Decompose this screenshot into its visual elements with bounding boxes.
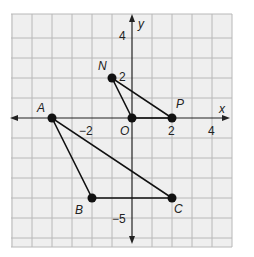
coordinate-plane: y x 4 2 −5 −2 2 4 O N P A B C xyxy=(0,0,254,257)
label-a: A xyxy=(36,101,45,115)
y-tick-2: 2 xyxy=(119,70,126,84)
x-tick-4: 4 xyxy=(208,124,215,138)
y-tick-neg5: −5 xyxy=(112,212,126,226)
x-tick-neg2: −2 xyxy=(79,124,93,138)
point-n xyxy=(108,74,117,83)
point-o xyxy=(128,114,137,123)
label-c: C xyxy=(174,202,183,216)
label-p: P xyxy=(176,97,184,111)
point-b xyxy=(88,194,97,203)
label-n: N xyxy=(98,59,107,73)
y-axis-label: y xyxy=(137,17,145,31)
x-axis-label: x xyxy=(218,102,226,116)
point-a xyxy=(48,114,57,123)
origin-label: O xyxy=(120,124,129,138)
label-b: B xyxy=(75,203,83,217)
x-tick-2: 2 xyxy=(168,124,175,138)
y-tick-4: 4 xyxy=(119,29,126,43)
point-p xyxy=(168,114,177,123)
